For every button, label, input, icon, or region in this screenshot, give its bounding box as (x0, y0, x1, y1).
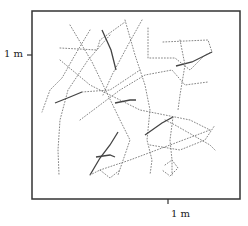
y-tick-label: 1 m (4, 48, 23, 59)
trajectory-path (96, 155, 115, 157)
trajectory-path (163, 40, 212, 52)
trajectory-path (148, 28, 212, 70)
trajectory-path (178, 40, 185, 110)
trajectory-path (60, 60, 210, 130)
trajectory-path (100, 130, 210, 170)
trajectory-path (165, 120, 215, 150)
trajectory-path (145, 117, 173, 135)
trajectory-path (42, 30, 90, 112)
trajectory-path (90, 132, 118, 175)
trajectory-path (150, 125, 215, 150)
trajectory-path (60, 22, 125, 50)
trajectory-plot (0, 0, 248, 226)
trajectory-path (80, 70, 208, 120)
trajectory-path (90, 170, 120, 178)
trajectory-path (55, 92, 82, 103)
trajectory-path (82, 70, 140, 92)
trajectory-path (176, 52, 212, 66)
trajectory-path (58, 35, 110, 175)
trajectory-path (162, 160, 178, 176)
x-tick-label: 1 m (171, 208, 190, 219)
trajectory-paths (42, 20, 215, 178)
trajectory-path (170, 117, 173, 175)
plot-frame (32, 11, 240, 199)
trajectory-path (102, 30, 116, 70)
trajectory-path (103, 20, 142, 95)
